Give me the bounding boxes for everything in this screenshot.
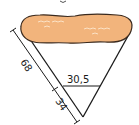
dimension-tick-bottom [74,120,80,124]
label-inner-width: 30,5 [67,74,89,85]
liquid-surface [21,14,132,43]
label-full-slant: 68 [18,57,34,74]
label-lower-slant: 34 [53,96,69,113]
dimension-tick-top [10,28,16,32]
cropped-text-fragment [60,1,66,3]
cone-right-side [83,36,128,117]
cone-diagram: 68 30,5 34 [0,0,139,125]
